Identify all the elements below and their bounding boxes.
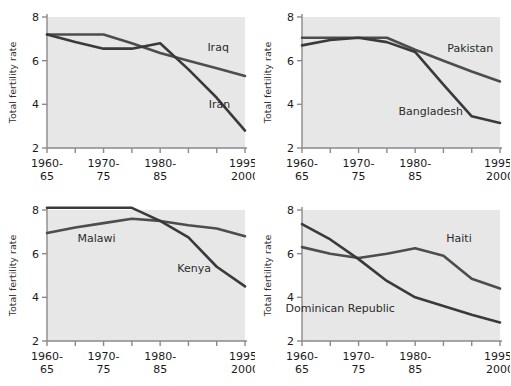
x-tick-label: 1960-65: [286, 157, 318, 183]
series-label-iran: Iran: [209, 98, 231, 111]
x-tick-label: 1995-2000: [229, 157, 255, 183]
x-tick-label: 1970-75: [88, 350, 120, 376]
x-tick-label: 1980-85: [144, 350, 176, 376]
x-tick-label: 1960-65: [31, 350, 63, 376]
y-axis-title: Total fertility rate: [262, 42, 273, 125]
y-tick-label: 2: [32, 142, 39, 155]
x-tick-label: 1980-85: [399, 157, 431, 183]
series-label-kenya: Kenya: [177, 262, 211, 275]
series-label-haiti: Haiti: [446, 232, 471, 245]
y-tick-label: 4: [32, 98, 39, 111]
x-tick-label: 1960-65: [286, 350, 318, 376]
series-label-iraq: Iraq: [207, 41, 229, 54]
y-tick-label: 8: [287, 204, 294, 217]
x-tick-label: 1995-2000: [484, 157, 510, 183]
chart-panel-bottom-left: 24681960-651970-751980-851995-2000Total …: [0, 193, 255, 386]
plot-background: [302, 210, 500, 341]
chart-grid: 24681960-651970-751980-851995-2000Total …: [0, 0, 511, 386]
y-tick-label: 6: [287, 248, 294, 261]
series-label-pakistan: Pakistan: [447, 42, 493, 55]
y-tick-label: 2: [32, 335, 39, 348]
chart-panel-bottom-right: 24681960-651970-751980-851995-2000Total …: [255, 193, 511, 386]
series-label-dominican-republic: Dominican Republic: [286, 302, 395, 315]
y-tick-label: 4: [287, 98, 294, 111]
x-tick-label: 1970-75: [343, 157, 375, 183]
y-tick-label: 2: [287, 142, 294, 155]
y-axis-title: Total fertility rate: [7, 235, 18, 318]
series-label-bangladesh: Bangladesh: [398, 105, 463, 118]
y-tick-label: 6: [32, 55, 39, 68]
y-tick-label: 2: [287, 335, 294, 348]
x-tick-label: 1995-2000: [484, 350, 510, 376]
y-tick-label: 8: [32, 204, 39, 217]
series-label-malawi: Malawi: [77, 232, 115, 245]
y-tick-label: 8: [32, 11, 39, 24]
plot-background: [47, 17, 245, 148]
chart-panel-top-right: 24681960-651970-751980-851995-2000Total …: [255, 0, 511, 193]
y-axis-title: Total fertility rate: [7, 42, 18, 125]
x-tick-label: 1980-85: [399, 350, 431, 376]
x-tick-label: 1995-2000: [229, 350, 255, 376]
y-axis-title: Total fertility rate: [262, 235, 273, 318]
x-tick-label: 1970-75: [88, 157, 120, 183]
chart-panel-top-left: 24681960-651970-751980-851995-2000Total …: [0, 0, 255, 193]
x-tick-label: 1960-65: [31, 157, 63, 183]
y-tick-label: 6: [287, 55, 294, 68]
x-tick-label: 1970-75: [343, 350, 375, 376]
y-tick-label: 6: [32, 248, 39, 261]
y-tick-label: 8: [287, 11, 294, 24]
x-tick-label: 1980-85: [144, 157, 176, 183]
y-tick-label: 4: [32, 291, 39, 304]
